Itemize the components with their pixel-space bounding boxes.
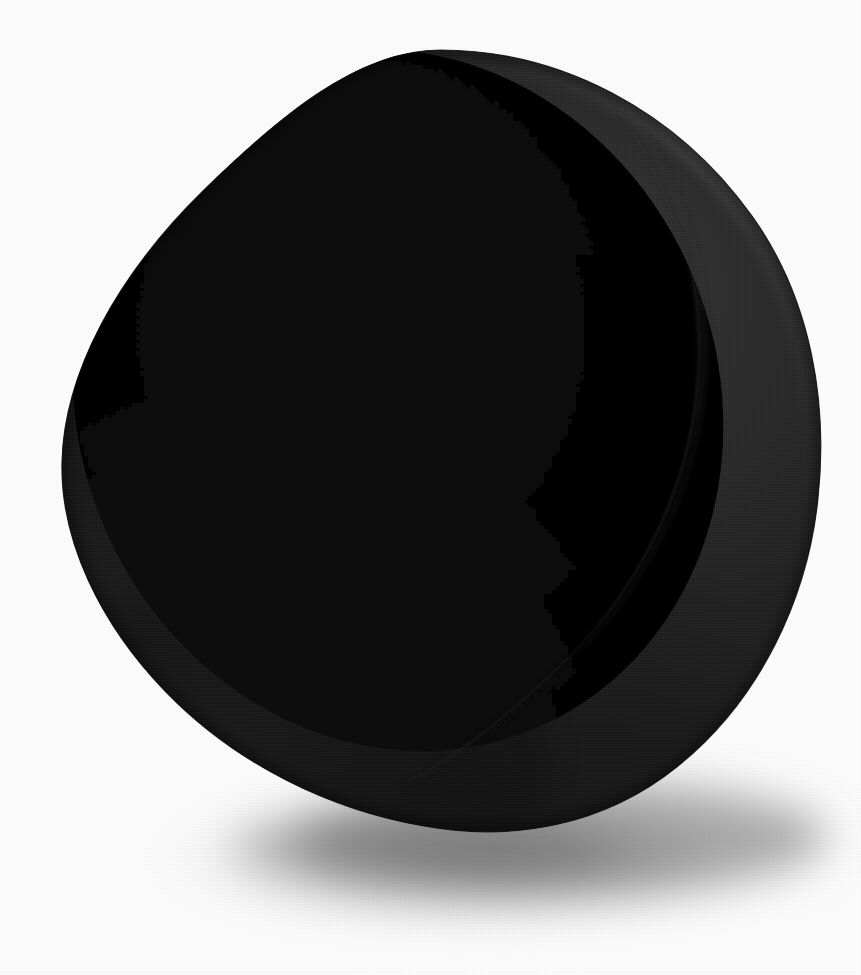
photo-canvas: A matte black fabric-covered egg or tear…: [0, 0, 861, 975]
black-sculpture-photograph: [0, 0, 861, 975]
